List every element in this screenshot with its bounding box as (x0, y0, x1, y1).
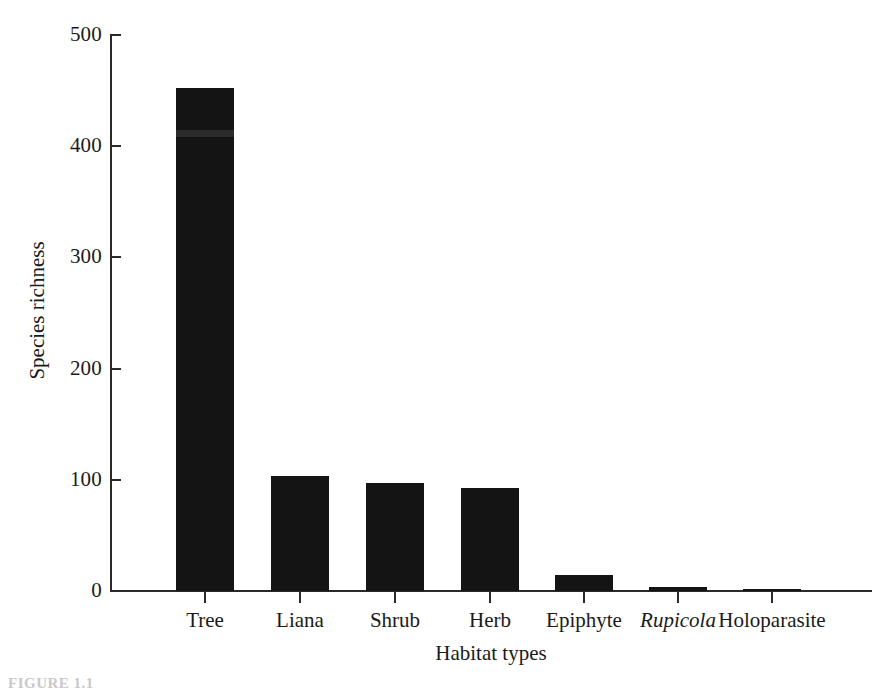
x-axis-tick-label-tree: Tree (186, 608, 224, 633)
x-axis-tick (771, 592, 773, 603)
y-axis-tick-label: 400 (30, 135, 102, 156)
y-axis-tick-label-text: 300 (40, 246, 102, 267)
x-axis-tick (677, 592, 679, 603)
x-axis-tick-label-liana: Liana (276, 608, 324, 633)
y-axis-tick-label-text: 0 (40, 580, 102, 601)
y-axis-tick-label-text: 500 (40, 24, 102, 45)
y-axis-tick-label-text: 200 (40, 358, 102, 379)
bar-herb (461, 488, 519, 591)
bar-epiphyte (555, 575, 613, 591)
bar-liana (271, 476, 329, 591)
y-axis-tick-label: 0 (30, 580, 102, 601)
y-axis-tick-label-text: 400 (40, 135, 102, 156)
bar-rupicola (649, 587, 707, 591)
y-axis-tick (110, 590, 121, 592)
y-axis-tick (110, 368, 121, 370)
x-axis-label: Habitat types (110, 643, 872, 664)
y-axis-tick (110, 256, 121, 258)
y-axis-line (110, 35, 112, 592)
x-axis-tick (583, 592, 585, 603)
chart-plot-area: 0100200300400500 TreeLianaShrubHerbEpiph… (0, 0, 892, 688)
y-axis-tick (110, 479, 121, 481)
x-axis-tick-label-herb: Herb (469, 608, 511, 633)
x-axis-tick (204, 592, 206, 603)
figure-root: 0100200300400500 TreeLianaShrubHerbEpiph… (0, 0, 892, 688)
y-axis-tick-label-text: 100 (40, 469, 102, 490)
bar-tree (176, 88, 234, 591)
x-axis-tick-label-shrub: Shrub (370, 608, 420, 633)
x-axis-tick-label-holoparasite: Holoparasite (718, 608, 825, 633)
bar-holoparasite (743, 589, 801, 591)
y-axis-tick-label: 500 (30, 24, 102, 45)
x-axis-tick-label-epiphyte: Epiphyte (546, 608, 622, 633)
y-axis-tick-label: 100 (30, 469, 102, 490)
y-axis-tick (110, 34, 121, 36)
y-axis-tick (110, 145, 121, 147)
x-axis-tick (394, 592, 396, 603)
x-axis-tick (299, 592, 301, 603)
figure-caption: FIGURE 1.1 (8, 676, 94, 688)
y-axis-label: Species richness (27, 211, 48, 411)
x-axis-tick (489, 592, 491, 603)
bar-shrub (366, 483, 424, 591)
x-axis-tick-label-rupicola: Rupicola (640, 608, 716, 633)
